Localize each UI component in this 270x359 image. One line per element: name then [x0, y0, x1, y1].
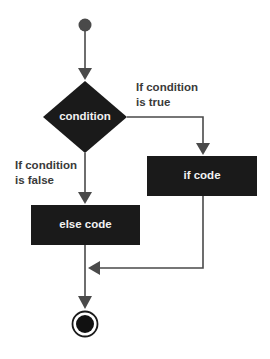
start-node: [79, 19, 92, 32]
arrowhead-icon: [88, 261, 100, 275]
false-label-line2: is false: [15, 173, 77, 188]
edge-start-to-condition: [78, 31, 92, 80]
arrowhead-icon: [78, 68, 92, 80]
arrowhead-icon: [78, 296, 92, 309]
false-label-line1: If condition: [15, 158, 77, 173]
true-branch-label: If condition is true: [136, 80, 198, 110]
false-branch-label: If condition is false: [15, 158, 77, 188]
arrowhead-icon: [78, 192, 92, 204]
end-node: [73, 312, 98, 337]
edge-else-to-end: [78, 245, 92, 309]
arrowhead-icon: [196, 143, 210, 155]
true-label-line2: is true: [136, 95, 198, 110]
edge-false-branch: [78, 153, 92, 204]
true-label-line1: If condition: [136, 80, 198, 95]
if-code-label: if code: [147, 169, 257, 181]
edge-true-branch: [127, 117, 210, 155]
condition-label: condition: [43, 110, 127, 122]
else-code-label: else code: [31, 218, 140, 230]
flowchart-diagram: condition if code else code If condition…: [0, 0, 270, 359]
